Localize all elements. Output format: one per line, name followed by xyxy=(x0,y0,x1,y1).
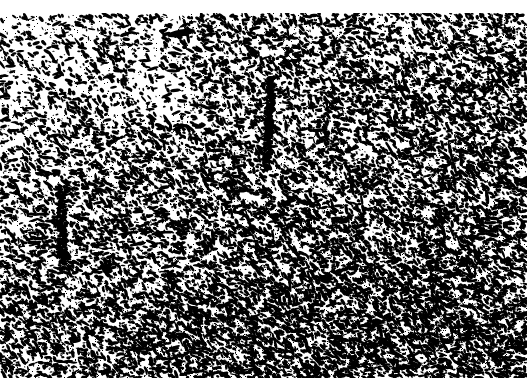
micrograph-figure xyxy=(0,0,527,390)
micrograph-image xyxy=(0,0,527,390)
